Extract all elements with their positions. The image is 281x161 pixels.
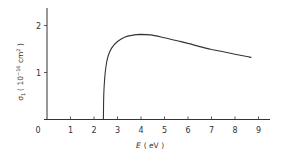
x-tick-label: 6 [185, 126, 190, 135]
x-tick-label: 3 [115, 126, 120, 135]
y-tick-label: 2 [36, 22, 41, 31]
data-curve [103, 34, 251, 119]
x-tick-label: 0 [35, 126, 40, 135]
x-tick-label: 5 [162, 126, 167, 135]
x-tick-label: 8 [232, 126, 237, 135]
y-ticks: 12 [36, 22, 47, 78]
x-tick-label: 4 [138, 126, 143, 135]
x-tick-label: 9 [256, 126, 261, 135]
x-tick-label: 7 [209, 126, 214, 135]
x-tick-label: 1 [68, 126, 73, 135]
x-tick-label: 2 [91, 126, 96, 135]
x-axis-label: E( eV ) [136, 141, 164, 150]
chart: 12 0123456789 E( eV ) σ1( 10−16 cm2 ) [0, 0, 281, 161]
y-axis-label: σ1( 10−16 cm2 ) [15, 43, 26, 101]
y-tick-label: 1 [36, 69, 41, 78]
